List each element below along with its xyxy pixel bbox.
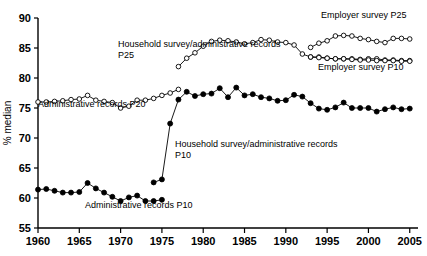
series-annotation-employer-p25: Employer survey P25	[321, 10, 407, 20]
data-point	[407, 106, 412, 111]
data-point	[36, 187, 41, 192]
data-point	[391, 105, 396, 110]
data-point	[69, 190, 74, 195]
data-point	[85, 93, 90, 98]
series-layer	[36, 33, 413, 203]
data-point	[308, 101, 313, 106]
data-point	[168, 121, 173, 126]
data-point	[242, 93, 247, 98]
data-point	[160, 93, 165, 98]
chart-series	[151, 85, 412, 185]
x-axis-tick-label: 1980	[191, 235, 215, 247]
data-point	[292, 43, 297, 48]
data-point	[52, 188, 57, 193]
x-axis-tick-label: 1965	[67, 235, 91, 247]
data-point	[300, 94, 305, 99]
x-axis-tick-label: 1995	[315, 235, 339, 247]
data-point	[383, 40, 388, 45]
data-point	[151, 180, 156, 185]
data-point	[333, 105, 338, 110]
series-annotation-household-p25-b: P25	[118, 50, 134, 60]
series-line	[154, 88, 410, 183]
series-annotation-household-p10: Household survey/administrative records	[175, 139, 338, 149]
chart-svg: 5560657075808590196019651970197519801985…	[0, 0, 427, 256]
data-point	[234, 85, 239, 90]
series-annotation-admin-p20: Administrative records P20	[38, 99, 146, 109]
data-point	[333, 34, 338, 39]
data-point	[407, 59, 412, 64]
data-point	[85, 181, 90, 186]
data-point	[159, 177, 164, 182]
data-point	[399, 107, 404, 112]
data-point	[349, 106, 354, 111]
data-point	[366, 106, 371, 111]
data-point	[77, 190, 82, 195]
x-axis-tick-label: 2000	[356, 235, 380, 247]
y-axis-tick-label: 90	[19, 12, 31, 24]
data-point	[201, 92, 206, 97]
x-axis-tick-label: 1990	[274, 235, 298, 247]
series-annotation-household-p25: Household survey/administrative records	[118, 39, 281, 49]
data-point	[358, 36, 363, 41]
chart-series	[308, 33, 412, 50]
data-point	[284, 40, 289, 45]
data-point	[102, 190, 107, 195]
data-point	[93, 186, 98, 191]
data-point	[399, 36, 404, 41]
x-axis-tick-label: 1970	[108, 235, 132, 247]
data-point	[151, 96, 156, 101]
y-axis-tick-label: 55	[19, 222, 31, 234]
chart-container: 5560657075808590196019651970197519801985…	[0, 0, 427, 256]
data-point	[308, 45, 313, 50]
data-point	[350, 34, 355, 39]
data-point	[217, 86, 222, 91]
data-point	[193, 51, 198, 56]
data-point	[176, 64, 181, 69]
data-point	[374, 109, 379, 114]
data-point	[275, 98, 280, 103]
data-point	[341, 100, 346, 105]
data-point	[316, 106, 321, 111]
y-axis-title-layer: % median	[2, 101, 13, 145]
data-point	[407, 37, 412, 42]
data-point	[350, 57, 355, 62]
data-point	[44, 187, 49, 192]
data-point	[259, 95, 264, 100]
data-point	[250, 92, 255, 97]
data-point	[135, 193, 140, 198]
data-point	[283, 98, 288, 103]
data-point	[358, 106, 363, 111]
y-axis-tick-label: 75	[19, 102, 31, 114]
data-point	[341, 57, 346, 62]
x-axis-tick-label: 2005	[397, 235, 421, 247]
data-point	[176, 97, 181, 102]
y-axis-tick-label: 65	[19, 162, 31, 174]
x-axis-tick-label: 1985	[232, 235, 256, 247]
data-point	[317, 41, 322, 46]
data-point	[317, 55, 322, 60]
data-point	[374, 39, 379, 44]
y-axis-tick-label: 60	[19, 192, 31, 204]
y-axis-tick-label: 85	[19, 42, 31, 54]
data-point	[226, 95, 231, 100]
data-point	[267, 96, 272, 101]
data-point	[325, 56, 330, 61]
x-axis-tick-label: 1975	[150, 235, 174, 247]
data-point	[110, 194, 115, 199]
y-axis-title: % median	[2, 101, 13, 145]
data-point	[300, 52, 305, 57]
data-point	[184, 56, 189, 61]
data-point	[333, 57, 338, 62]
data-point	[209, 91, 214, 96]
data-point	[325, 107, 330, 112]
series-annotation-admin-p10: Administrative records P10	[85, 200, 193, 210]
data-point	[60, 190, 65, 195]
data-point	[391, 36, 396, 41]
data-point	[192, 94, 197, 99]
data-point	[308, 55, 313, 60]
data-point	[184, 89, 189, 94]
data-point	[341, 33, 346, 38]
data-point	[366, 37, 371, 42]
series-annotation-employer-p10: Employer survey P10	[318, 62, 404, 72]
data-point	[176, 87, 181, 92]
